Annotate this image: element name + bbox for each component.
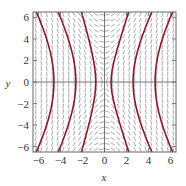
slope-segment	[99, 133, 104, 134]
slope-segment	[156, 39, 157, 44]
slope-segment	[46, 29, 47, 34]
slope-segment	[139, 18, 141, 22]
slope-segment	[145, 18, 147, 22]
slope-segment	[111, 14, 115, 16]
slope-segment	[79, 115, 81, 120]
slope-segment	[63, 115, 64, 120]
slope-segment	[134, 147, 136, 151]
slope-segment	[167, 39, 168, 44]
slope-segment	[140, 125, 141, 130]
slope-segment	[111, 110, 114, 114]
slope-segment	[99, 14, 104, 15]
slope-segment	[74, 50, 75, 55]
slope-segment	[173, 109, 174, 114]
slope-segment	[73, 13, 75, 17]
y-axis-label: y	[5, 77, 11, 89]
slope-segment	[162, 18, 163, 23]
slope-segment	[122, 148, 125, 152]
slope-segment	[52, 147, 53, 152]
slope-segment	[73, 131, 75, 135]
slope-segment	[99, 41, 104, 42]
slope-segment	[90, 66, 91, 71]
slope-segment	[123, 61, 124, 66]
slope-segment	[63, 109, 64, 114]
slope-segment	[173, 34, 174, 39]
slope-segment	[79, 39, 81, 43]
slope-segment	[123, 126, 125, 130]
slope-segment	[173, 45, 174, 50]
slope-segment	[41, 125, 42, 130]
slope-segment	[35, 28, 36, 33]
slope-segment	[123, 99, 124, 104]
slope-segment	[57, 120, 58, 125]
slope-segment	[173, 28, 174, 33]
slope-segment	[85, 88, 86, 93]
slope-segment	[140, 98, 141, 103]
slope-segment	[111, 45, 115, 48]
slope-segment	[78, 18, 81, 22]
slope-segment	[151, 104, 152, 109]
slope-segment	[101, 77, 102, 82]
slope-segment	[145, 142, 147, 146]
slope-segment	[84, 34, 86, 38]
slope-segment	[123, 93, 124, 98]
slope-segment	[84, 109, 86, 113]
slope-segment	[57, 136, 58, 141]
slope-segment	[105, 100, 109, 102]
slope-segment	[145, 104, 146, 109]
slope-segment	[140, 109, 141, 114]
slope-segment	[99, 111, 104, 113]
slope-segment	[151, 131, 152, 136]
slope-segment	[105, 30, 110, 31]
slope-segment	[63, 50, 64, 55]
slope-segment	[68, 109, 69, 114]
slope-segment	[73, 136, 75, 140]
slope-segment	[122, 142, 125, 146]
slope-segment	[89, 34, 92, 38]
slope-segment	[57, 109, 58, 114]
slope-segment	[162, 136, 163, 141]
slope-segment	[151, 136, 152, 141]
slope-segment	[167, 125, 168, 130]
slope-segment	[90, 56, 92, 60]
slope-segment	[173, 39, 174, 44]
slope-segment	[46, 45, 47, 50]
slope-segment	[100, 62, 104, 64]
slope-segment	[41, 147, 42, 152]
slope-segment	[68, 136, 70, 140]
x-tick-label: −6	[33, 154, 45, 166]
slope-segment	[129, 93, 130, 98]
slope-segment	[151, 29, 152, 34]
slope-segment	[94, 115, 98, 118]
slope-segment	[68, 104, 69, 109]
slope-segment	[90, 93, 91, 98]
slope-segment	[52, 45, 53, 50]
slope-segment	[122, 13, 125, 17]
slope-segment	[95, 56, 98, 60]
slope-segment	[134, 50, 135, 55]
y-tick-labels: −6−4−20246	[17, 11, 29, 152]
slope-segment	[100, 100, 104, 102]
slope-segment	[105, 116, 110, 117]
slope-segment	[145, 98, 146, 103]
slope-segment	[156, 131, 157, 136]
slope-segment	[145, 55, 146, 60]
slope-segment	[78, 142, 81, 146]
slope-segment	[123, 39, 125, 43]
slope-segment	[35, 50, 36, 55]
slope-segment	[89, 148, 93, 151]
slope-segment	[79, 136, 81, 140]
slope-segment	[52, 18, 53, 23]
slope-segment	[134, 29, 136, 33]
slope-segment	[57, 104, 58, 109]
slope-segment	[62, 12, 64, 16]
slope-segment	[117, 34, 120, 38]
slope-segment	[79, 50, 80, 55]
slope-segment	[94, 132, 98, 135]
slope-segment	[162, 142, 163, 147]
slope-segment	[84, 13, 87, 17]
slope-segment	[100, 67, 104, 70]
slope-segment	[151, 125, 152, 130]
slope-segment	[156, 136, 157, 141]
x-tick-labels: −6−4−20246	[33, 154, 174, 166]
